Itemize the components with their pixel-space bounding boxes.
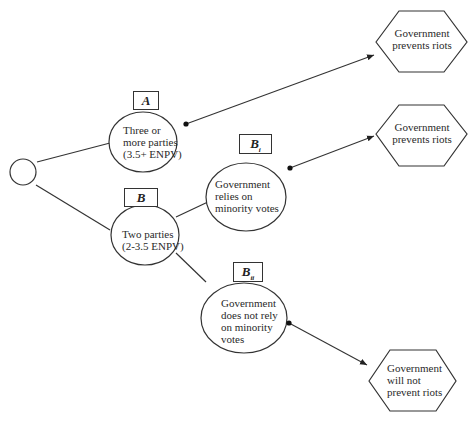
text-line: will not	[387, 374, 442, 386]
text-line: prevents riots	[390, 39, 454, 51]
text-line: relies on	[215, 190, 279, 202]
node-not-rely-minority-text: Government does not rely on minority vot…	[221, 297, 278, 345]
edge-two-parties-to-relies	[176, 201, 210, 217]
edge-root-to-three-parties	[37, 143, 110, 162]
text-line: votes	[221, 333, 278, 345]
text-line: (2-3.5 ENPV)	[122, 240, 184, 252]
text-line: Government	[221, 297, 278, 309]
edge-root-to-two-parties	[36, 185, 110, 230]
node-three-parties-text: Three or more parties (3.5+ ENPV)	[123, 124, 182, 160]
label-b-text: B	[137, 190, 146, 205]
text-line: Two parties	[122, 228, 184, 240]
arrow-not-rely-to-outcome-bottom	[289, 323, 367, 365]
text-line: (3.5+ ENPV)	[123, 148, 182, 160]
arrow-three-parties-to-outcome-top	[186, 55, 374, 124]
label-bi-subscript: i	[259, 146, 261, 154]
text-line: prevent riots	[387, 386, 442, 398]
text-line: minority votes	[215, 202, 279, 214]
label-box-bii: Bii	[233, 262, 263, 282]
text-line: Government	[390, 27, 454, 39]
outcome-bottom-text: Government will not prevent riots	[387, 362, 442, 398]
arrow-relies-to-outcome-middle	[290, 136, 374, 168]
root-node	[10, 159, 36, 185]
text-line: more parties	[123, 136, 182, 148]
outcome-top-text: Government prevents riots	[390, 27, 454, 51]
text-line: Government	[215, 178, 279, 190]
text-line: Three or	[123, 124, 182, 136]
label-box-b: B	[124, 188, 158, 207]
label-bi-text: B	[250, 136, 259, 151]
label-a-text: A	[142, 93, 151, 108]
label-box-a: A	[133, 91, 159, 110]
node-relies-minority-text: Government relies on minority votes	[215, 178, 279, 214]
edge-two-parties-to-not-rely	[176, 253, 206, 282]
text-line: prevents riots	[390, 133, 454, 145]
text-line: Government	[387, 362, 442, 374]
node-two-parties-text: Two parties (2-3.5 ENPV)	[122, 228, 184, 252]
label-bii-subscript: ii	[250, 274, 254, 282]
text-line: on minority	[221, 321, 278, 333]
arrow-origin-dot	[287, 165, 292, 170]
arrow-origin-dot	[286, 320, 291, 325]
arrow-origin-dot	[183, 121, 188, 126]
outcome-middle-text: Government prevents riots	[390, 121, 454, 145]
text-line: does not rely	[221, 309, 278, 321]
text-line: Government	[390, 121, 454, 133]
label-box-bi: Bi	[239, 134, 272, 154]
